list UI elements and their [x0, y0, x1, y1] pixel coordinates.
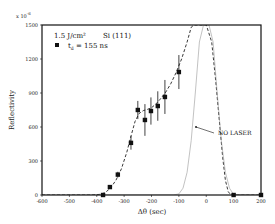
y-tick-label: 0	[35, 192, 38, 198]
data-point-square	[163, 95, 167, 99]
legend-square-marker	[55, 43, 59, 47]
y-tick-label: 1200	[25, 56, 38, 62]
y-axis-title: Reflectivity	[8, 90, 16, 130]
x-tick-label: 200	[256, 198, 266, 204]
y-tick-label: 600	[28, 124, 38, 130]
y-tick-label: 1500	[25, 22, 38, 28]
legend-sample: Si (111)	[103, 32, 131, 40]
data-point-square	[149, 109, 153, 113]
x-tick-label: 100	[229, 198, 239, 204]
data-point-square	[156, 104, 160, 108]
x-tick-label: -400	[91, 198, 102, 204]
x-axis-title: Δθ (sec)	[138, 208, 167, 216]
no-laser-label: NO LASER	[218, 129, 252, 136]
y-multiplier-label: x 10-6	[16, 11, 31, 19]
legend-delay: td = 155 ns	[68, 42, 108, 51]
y-tick-label: 300	[28, 158, 38, 164]
reflectivity-chart: x 10-6 Reflectivity Δθ (sec) -600-500-40…	[0, 0, 275, 224]
data-point-square	[108, 185, 112, 189]
data-point-square	[116, 172, 120, 176]
data-point-square	[143, 118, 147, 122]
y-multiplier-exponent: -6	[27, 11, 31, 16]
data-point-square	[129, 141, 133, 145]
x-tick-label: -600	[36, 198, 47, 204]
y-tick-label: 900	[28, 90, 38, 96]
x-tick-label: 0	[205, 198, 208, 204]
data-point-square	[136, 108, 140, 112]
no-laser-annotation: NO LASER	[195, 126, 252, 136]
x-tick-label: -500	[64, 198, 75, 204]
x-tick-label: -200	[146, 198, 157, 204]
legend: 1.5 J/cm² Si (111) td = 155 ns	[54, 32, 131, 51]
legend-fluence: 1.5 J/cm²	[54, 32, 86, 40]
x-tick-label: -100	[173, 198, 184, 204]
x-tick-label: -300	[119, 198, 130, 204]
axis-ticks: -600-500-400-300-200-1000100200030060090…	[25, 22, 266, 204]
data-markers	[101, 55, 263, 197]
data-point-square	[177, 70, 181, 74]
